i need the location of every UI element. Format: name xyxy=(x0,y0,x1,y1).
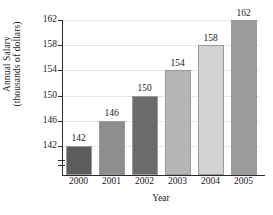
x-tick-label: 2005 xyxy=(225,177,263,187)
bar[interactable] xyxy=(198,45,224,175)
bar-group[interactable]: 150 xyxy=(132,20,158,175)
y-tick-label: 142 xyxy=(35,141,57,151)
y-tick-label: 150 xyxy=(35,91,57,101)
bar[interactable] xyxy=(165,70,191,175)
bars-layer: 142146150154158162 xyxy=(62,20,260,175)
bar[interactable] xyxy=(132,96,158,176)
y-tick-label: 154 xyxy=(35,66,57,76)
bar[interactable] xyxy=(99,121,125,175)
bar-value-label: 158 xyxy=(192,34,230,44)
bar-value-label: 150 xyxy=(126,84,164,94)
bar-group[interactable]: 142 xyxy=(66,20,92,175)
bar-group[interactable]: 154 xyxy=(165,20,191,175)
y-axis-tick-labels: 142146150154158162 xyxy=(33,0,57,215)
bar[interactable] xyxy=(231,20,257,175)
bar-value-label: 162 xyxy=(225,9,263,19)
x-axis-title: Year xyxy=(62,193,260,203)
bar-group[interactable]: 146 xyxy=(99,20,125,175)
bar-value-label: 154 xyxy=(159,59,197,69)
y-axis-title-line-2: (thousands of dollars) xyxy=(13,21,23,106)
y-axis-title: Annual Salary (thousands of dollars) xyxy=(0,4,27,124)
bar[interactable] xyxy=(66,146,92,175)
bar-chart-figure: Annual Salary (thousands of dollars) 142… xyxy=(0,0,273,215)
bar-group[interactable]: 158 xyxy=(198,20,224,175)
y-tick-label: 146 xyxy=(35,116,57,126)
y-tick-label: 158 xyxy=(35,40,57,50)
x-axis-tick-labels: 200020012002200320042005 xyxy=(62,177,260,191)
bar-value-label: 146 xyxy=(93,109,131,119)
bar-value-label: 142 xyxy=(60,134,98,144)
y-tick-label: 162 xyxy=(35,15,57,25)
bar-group[interactable]: 162 xyxy=(231,20,257,175)
